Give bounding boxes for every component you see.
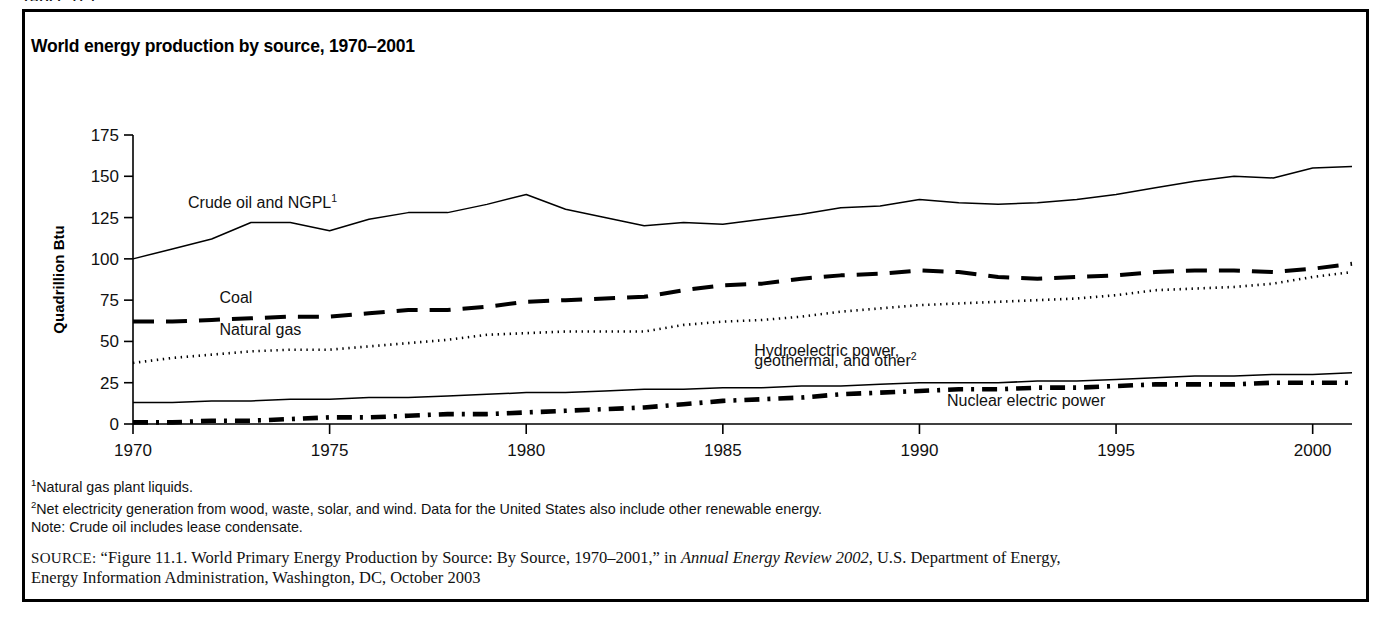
cut-off-caption-fragment: TABLE 11.1 — [22, 0, 97, 1]
chart-title: World energy production by source, 1970–… — [31, 36, 415, 57]
footnote-2: 2Net electricity generation from wood, w… — [31, 496, 1321, 518]
figure-footnotes: 1Natural gas plant liquids. 2Net electri… — [31, 474, 1321, 536]
source-block: SOURCE: “Figure 11.1. World Primary Ener… — [31, 548, 1331, 588]
footnote-1: 1Natural gas plant liquids. — [31, 474, 1321, 496]
footnote-note-text: Note: Crude oil includes lease condensat… — [31, 519, 303, 535]
source-publication-title: Annual Energy Review 2002 — [681, 548, 869, 567]
source-line-2: Energy Information Administration, Washi… — [31, 568, 1331, 588]
footnote-note: Note: Crude oil includes lease condensat… — [31, 519, 1321, 537]
source-text-b: , U.S. Department of Energy, — [869, 548, 1061, 567]
source-text-a: “Figure 11.1. World Primary Energy Produ… — [101, 548, 681, 567]
footnote-2-text: Net electricity generation from wood, wa… — [36, 501, 822, 517]
source-label: SOURCE: — [31, 550, 96, 566]
footnote-1-text: Natural gas plant liquids. — [36, 479, 193, 495]
